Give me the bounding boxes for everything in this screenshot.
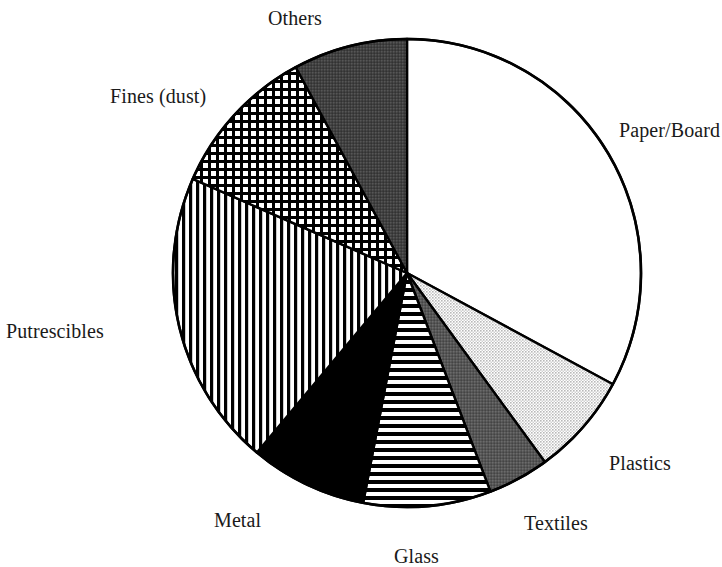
- pie-chart-svg: [0, 0, 722, 567]
- slice-label-metal: Metal: [214, 510, 261, 530]
- slice-label-glass: Glass: [394, 546, 439, 566]
- pie-chart-figure: Others Fines (dust) Paper/Board Putresci…: [0, 0, 722, 567]
- slice-label-plastics: Plastics: [609, 453, 671, 473]
- pie-slices-group: [173, 39, 641, 507]
- slice-label-textiles: Textiles: [524, 513, 588, 533]
- slice-label-putrescibles: Putrescibles: [6, 321, 104, 341]
- slice-label-fines-dust: Fines (dust): [110, 86, 206, 106]
- slice-label-paper-board: Paper/Board: [619, 120, 720, 140]
- slice-label-others: Others: [268, 8, 322, 28]
